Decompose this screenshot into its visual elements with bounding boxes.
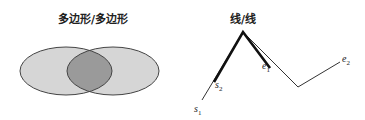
line-overlap-figure: s1 s2 e1 e2 <box>194 32 350 117</box>
label-s1: s1 <box>194 103 202 117</box>
polygon-overlap-figure <box>20 47 159 95</box>
diagram-canvas: s1 s2 e1 e2 <box>0 0 365 120</box>
label-e2: e2 <box>342 53 350 67</box>
line-overlap-segment <box>214 32 270 82</box>
label-e1: e1 <box>262 60 270 74</box>
label-s2: s2 <box>215 79 223 93</box>
line-2 <box>214 32 340 87</box>
